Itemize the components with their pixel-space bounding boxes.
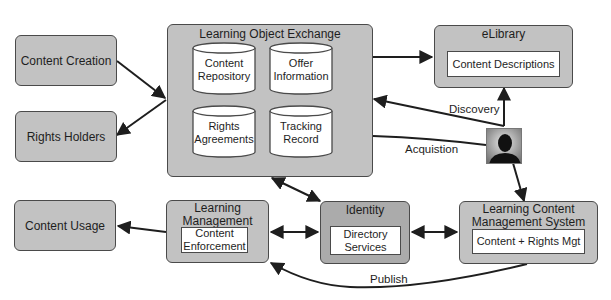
edge-exchange-to-rights-holders xyxy=(117,100,166,135)
store-label-line2: Record xyxy=(269,133,333,146)
store-label-line1: Rights xyxy=(192,120,256,133)
person-silhouette-icon xyxy=(487,129,522,164)
discovery-label: Discovery xyxy=(449,103,499,115)
content-usage-node[interactable]: Content Usage xyxy=(14,200,116,251)
edge-lm-to-usage xyxy=(118,226,166,232)
inner-line2: Enforcement xyxy=(183,240,245,253)
content-rights-mgt-box[interactable]: Content + Rights Mgt xyxy=(472,229,585,254)
store-label-line2: Information xyxy=(269,70,333,83)
content-descriptions-box[interactable]: Content Descriptions xyxy=(447,51,560,77)
elibrary-node[interactable]: eLibrary Content Descriptions xyxy=(434,25,573,88)
store-label-line2: Repository xyxy=(192,70,256,83)
content-creation-label: Content Creation xyxy=(21,54,112,68)
content-enforcement-box[interactable]: Content Enforcement xyxy=(181,227,248,253)
directory-services-box[interactable]: Directory Services xyxy=(330,226,401,255)
store-label-line2: Agreements xyxy=(192,133,256,146)
lcms-node[interactable]: Learning Content Management System Conte… xyxy=(459,201,598,264)
edge-exchange-identity xyxy=(272,178,320,201)
inner-line2: Services xyxy=(344,241,386,254)
identity-node[interactable]: Identity Directory Services xyxy=(320,201,410,264)
elibrary-title: eLibrary xyxy=(435,27,572,41)
inner-line1: Directory xyxy=(343,228,387,241)
store-tracking-record[interactable]: Tracking Record xyxy=(269,105,333,159)
rights-holders-label: Rights Holders xyxy=(27,130,106,144)
rights-holders-node[interactable]: Rights Holders xyxy=(15,111,117,162)
learning-management-node[interactable]: Learning Management Content Enforcement xyxy=(166,200,269,263)
user-avatar[interactable] xyxy=(486,128,522,164)
publish-label: Publish xyxy=(370,273,408,285)
content-creation-node[interactable]: Content Creation xyxy=(15,35,117,86)
edge-user-to-lcms xyxy=(513,163,524,201)
learning-object-exchange-title: Learning Object Exchange xyxy=(168,27,372,41)
acquisition-label: Acquistion xyxy=(405,143,458,155)
lcms-title: Learning Content Management System xyxy=(460,203,597,229)
store-content-repository[interactable]: Content Repository xyxy=(192,42,256,96)
learning-management-title: Learning Management xyxy=(167,202,268,228)
store-label-line1: Content xyxy=(192,57,256,70)
store-label-line1: Tracking xyxy=(269,120,333,133)
store-offer-information[interactable]: Offer Information xyxy=(269,42,333,96)
edge-creation-to-exchange xyxy=(117,61,165,98)
learning-object-exchange-node[interactable]: Learning Object Exchange Content Reposit… xyxy=(167,24,373,177)
store-label-line1: Offer xyxy=(269,57,333,70)
store-rights-agreements[interactable]: Rights Agreements xyxy=(192,105,256,159)
title-line2: Management System xyxy=(460,216,597,229)
identity-title: Identity xyxy=(321,203,409,217)
content-usage-label: Content Usage xyxy=(25,219,105,233)
inner-line1: Content xyxy=(195,227,234,240)
